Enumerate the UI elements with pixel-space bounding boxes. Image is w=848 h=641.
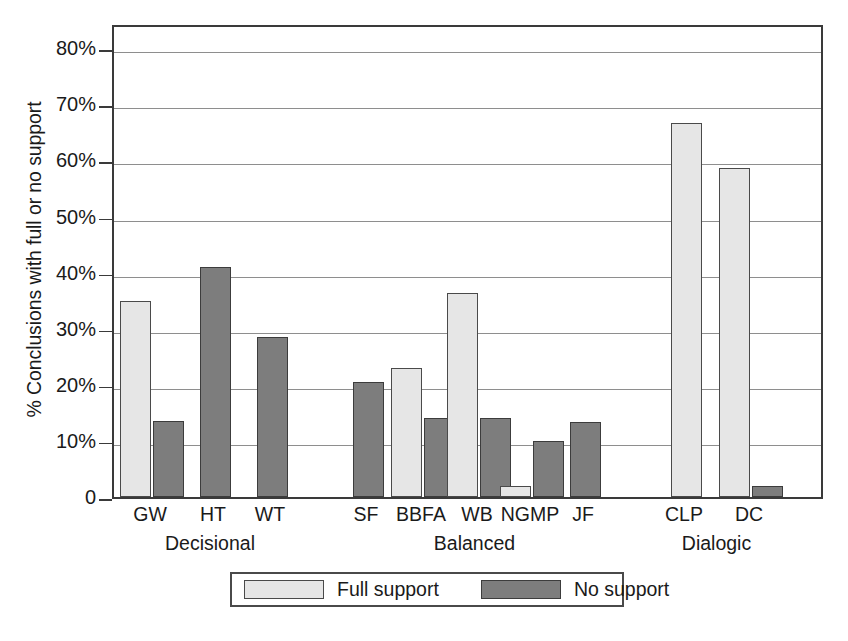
x-axis-label-jf: JF	[572, 503, 594, 526]
bar-gw-full-support	[120, 301, 151, 497]
y-axis-tick-mark	[99, 219, 112, 221]
x-axis-label-dc: DC	[735, 503, 763, 526]
bar-sf-no-support	[353, 382, 384, 497]
x-axis-label-gw: GW	[133, 503, 167, 526]
y-axis-tick-label: 10%	[56, 430, 96, 453]
y-axis-title: % Conclusions with full or no support	[23, 20, 46, 500]
bar-dc-no-support	[752, 486, 783, 497]
x-axis-label-wt: WT	[255, 503, 285, 526]
chart-legend: Full support No support	[230, 572, 624, 607]
y-axis-tick-mark	[99, 499, 112, 501]
bar-dc-full-support	[719, 168, 750, 497]
plot-area	[112, 25, 823, 499]
bar-jf-no-support	[570, 422, 601, 497]
bar-gw-no-support	[153, 421, 184, 497]
bar-clp-full-support	[671, 123, 702, 497]
y-axis-tick-mark	[99, 50, 112, 52]
x-axis-label-bbfa: BBFA	[396, 503, 446, 526]
legend-item-no-support: No support	[469, 574, 669, 605]
y-axis-tick-label: 60%	[56, 149, 96, 172]
y-axis-tick-label: 50%	[56, 206, 96, 229]
group-label-balanced: Balanced	[434, 532, 515, 555]
bar-wt-no-support	[257, 337, 288, 497]
y-axis-tick-mark	[99, 387, 112, 389]
group-label-dialogic: Dialogic	[682, 532, 751, 555]
y-axis-tick-mark	[99, 275, 112, 277]
group-label-decisional: Decisional	[165, 532, 255, 555]
legend-item-full-support: Full support	[232, 574, 439, 605]
y-axis-tick-mark	[99, 331, 112, 333]
gridline	[114, 52, 821, 53]
y-axis-tick-label: 20%	[56, 374, 96, 397]
x-axis-label-clp: CLP	[665, 503, 703, 526]
legend-label-full-support: Full support	[337, 578, 439, 601]
x-axis-label-wb: WB	[461, 503, 492, 526]
y-axis-tick-label: 0	[85, 486, 96, 509]
x-axis-label-sf: SF	[354, 503, 379, 526]
y-axis-tick-label: 40%	[56, 262, 96, 285]
y-axis-tick-mark	[99, 162, 112, 164]
x-axis-label-ht: HT	[200, 503, 226, 526]
gridline	[114, 164, 821, 165]
gridline	[114, 221, 821, 222]
bar-ngmp-no-support	[533, 441, 564, 497]
legend-swatch-no-support	[481, 580, 561, 599]
legend-swatch-full-support	[244, 580, 324, 599]
y-axis-tick-mark	[99, 106, 112, 108]
bar-wb-full-support	[447, 293, 478, 497]
y-axis-tick-label: 30%	[56, 318, 96, 341]
bar-ngmp-full-support	[500, 486, 531, 497]
bar-ht-no-support	[200, 267, 231, 497]
chart-figure: % Conclusions with full or no support 01…	[0, 0, 848, 641]
bar-bbfa-full-support	[391, 368, 422, 497]
y-axis-tick-mark	[99, 443, 112, 445]
gridline	[114, 108, 821, 109]
legend-label-no-support: No support	[574, 578, 669, 601]
x-axis-label-ngmp: NGMP	[501, 503, 560, 526]
y-axis-tick-label: 80%	[56, 37, 96, 60]
y-axis-tick-label: 70%	[56, 93, 96, 116]
